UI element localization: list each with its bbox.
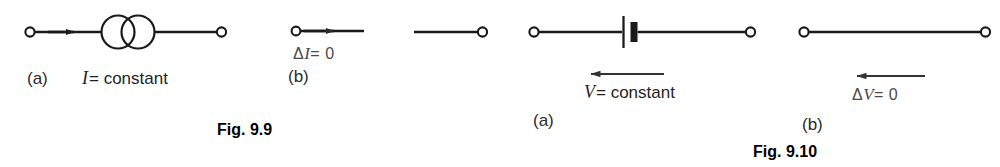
terminal-node-right — [981, 27, 990, 36]
delta-symbol: Δ — [293, 45, 304, 62]
fig-9-9-continuation-wire — [414, 27, 487, 36]
delta-symbol: Δ — [852, 86, 863, 103]
expression-variable: V — [584, 82, 596, 102]
fig-9-10-panel-b-circuit — [799, 27, 990, 36]
figure-caption-9-10: Fig. 9.10 — [753, 143, 817, 161]
terminal-node-left — [529, 27, 538, 36]
terminal-node-left — [25, 27, 34, 36]
expression-fig99-a: I= constant — [82, 69, 168, 87]
panel-label-fig99-b: (b) — [288, 68, 309, 85]
terminal-node-right — [478, 27, 487, 36]
current-source-circle-left — [102, 16, 135, 49]
expression-relation: = 0 — [874, 86, 898, 103]
expression-variable: I — [82, 68, 89, 88]
fig-9-9-panel-b-circuit — [292, 27, 364, 36]
terminal-node-left — [799, 27, 808, 36]
panel-label-fig99-a: (a) — [27, 70, 48, 87]
expression-fig910-b: ΔV= 0 — [852, 86, 898, 103]
expression-variable: V — [863, 85, 874, 104]
expression-fig910-a: V= constant — [584, 83, 675, 101]
terminal-node-right — [746, 27, 755, 36]
fig-9-10-panel-a-circuit — [529, 16, 755, 48]
figure-caption-9-9: Fig. 9.9 — [217, 121, 272, 139]
terminal-node-left — [292, 27, 301, 36]
expression-relation: = 0 — [310, 45, 334, 62]
current-source-circle-right — [122, 16, 155, 49]
terminal-node-right — [217, 27, 226, 36]
fig-9-9-panel-a-circuit — [25, 16, 226, 49]
panel-label-fig910-b: (b) — [802, 116, 823, 133]
expression-fig99-b: ΔI= 0 — [293, 45, 335, 62]
expression-relation: = constant — [89, 69, 168, 88]
panel-label-fig910-a: (a) — [533, 112, 554, 129]
expression-relation: = constant — [596, 83, 675, 102]
